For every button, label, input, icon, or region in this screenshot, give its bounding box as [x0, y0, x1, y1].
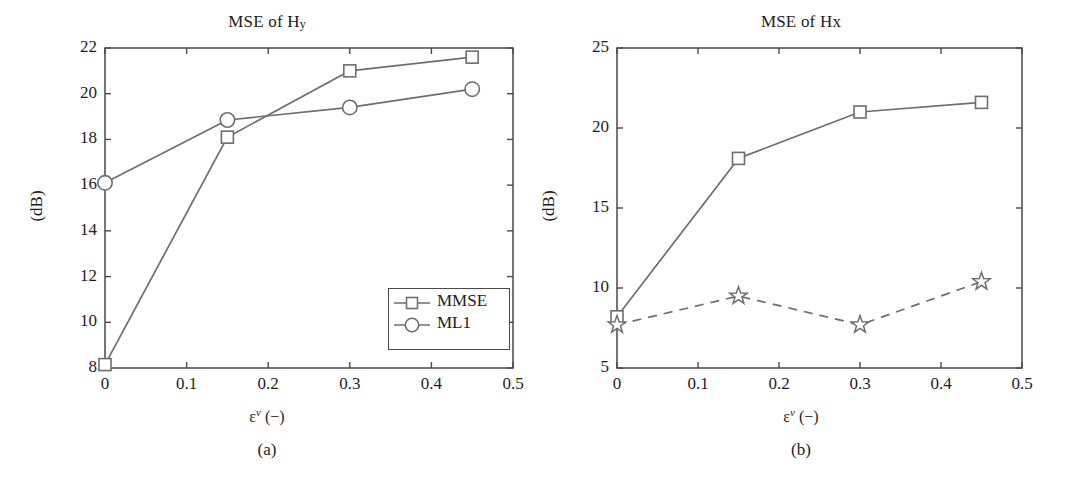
marker-square: [221, 131, 233, 143]
series-line-mmse-without-off-grid-estimation: [617, 102, 982, 316]
plot-frame: [617, 48, 1022, 368]
x-tick-label: 0.1: [157, 374, 217, 394]
y-tick-label: 20: [43, 83, 97, 103]
chart-panel-b: MSE of Hx (dB) εν (−) (b) MMSE without o…: [534, 0, 1068, 479]
x-tick-label: 0.3: [830, 374, 890, 394]
legend-marker-circle-icon: [392, 314, 432, 336]
marker-square: [407, 298, 418, 309]
x-tick-label: 0: [587, 374, 647, 394]
marker-circle: [343, 100, 357, 114]
chart-panel-a: MSE of Hy (dB) εν (−) (a) MMSEML1 00.10.…: [0, 0, 534, 479]
x-tick-label: 0.5: [992, 374, 1052, 394]
panel-caption-b: (b): [534, 440, 1068, 460]
panel-caption-a: (a): [0, 440, 534, 460]
legend-label: MMSE: [437, 292, 487, 309]
legend-label: ML1: [437, 314, 471, 331]
marker-circle: [220, 113, 234, 127]
legend-item[interactable]: MMSE: [392, 292, 503, 314]
legend-item[interactable]: ML1: [392, 314, 503, 336]
x-tick-label: 0.3: [320, 374, 380, 394]
marker-square: [854, 106, 866, 118]
x-tick-label: 0.4: [911, 374, 971, 394]
marker-square: [733, 152, 745, 164]
x-tick-label: 0.1: [668, 374, 728, 394]
legend-a[interactable]: MMSEML1: [388, 288, 510, 350]
x-axis-label-a-tail: (−): [261, 408, 285, 425]
x-axis-label-b: εν (−): [534, 406, 1068, 426]
y-tick-label: 20: [555, 117, 609, 137]
figure-root: MSE of Hy (dB) εν (−) (a) MMSEML1 00.10.…: [0, 0, 1068, 479]
marker-circle: [405, 318, 418, 331]
y-tick-label: 5: [555, 357, 609, 377]
y-tick-label: 12: [43, 266, 97, 286]
x-tick-label: 0.2: [238, 374, 298, 394]
y-tick-label: 8: [43, 357, 97, 377]
marker-square: [976, 96, 988, 108]
x-tick-label: 0: [75, 374, 135, 394]
x-axis-label-a: εν (−): [0, 406, 534, 426]
y-tick-label: 22: [43, 37, 97, 57]
y-tick-label: 14: [43, 220, 97, 240]
y-axis-label-a: (dB): [27, 156, 47, 256]
marker-star: [730, 287, 748, 304]
y-tick-label: 18: [43, 128, 97, 148]
legend-marker-square-icon: [392, 292, 432, 314]
marker-star: [851, 316, 869, 333]
y-tick-label: 15: [555, 197, 609, 217]
y-tick-label: 10: [555, 277, 609, 297]
marker-circle: [465, 82, 479, 96]
marker-square: [344, 65, 356, 77]
x-tick-label: 0.4: [401, 374, 461, 394]
series-line-mmse-with-off-grid-estimation: [617, 282, 982, 325]
marker-circle: [98, 176, 112, 190]
x-tick-label: 0.2: [749, 374, 809, 394]
x-axis-label-b-tail: (−): [795, 408, 819, 425]
marker-star: [973, 272, 991, 289]
marker-square: [99, 359, 111, 371]
y-tick-label: 25: [555, 37, 609, 57]
y-tick-label: 10: [43, 311, 97, 331]
y-tick-label: 16: [43, 174, 97, 194]
marker-square: [466, 51, 478, 63]
